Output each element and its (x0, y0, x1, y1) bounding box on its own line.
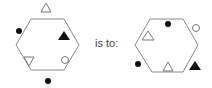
open-triangle-up-icon (41, 3, 51, 12)
open-triangle-up-icon (142, 31, 154, 40)
filled-dot-icon (45, 78, 51, 84)
open-circle-icon (193, 25, 200, 32)
connector-text: is to: (95, 37, 118, 49)
filled-dot-icon (165, 21, 171, 27)
open-triangle-up-icon (163, 62, 173, 71)
open-circle-icon (62, 57, 69, 64)
right-figure (135, 19, 201, 72)
left-hexagon (16, 19, 79, 70)
left-figure (16, 3, 79, 84)
filled-triangle-up-icon (58, 31, 70, 40)
filled-dot-icon (16, 28, 22, 34)
filled-dot-icon (135, 61, 141, 67)
filled-triangle-up-icon (189, 61, 201, 70)
